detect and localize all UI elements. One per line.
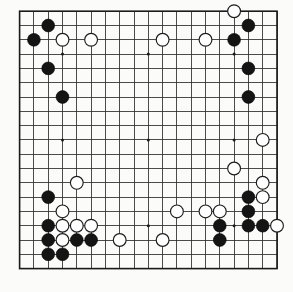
black-stone[interactable] [56, 248, 69, 261]
go-board-canvas[interactable] [0, 0, 293, 292]
white-stone[interactable] [70, 219, 83, 232]
black-stone[interactable] [56, 91, 69, 104]
star-point [61, 53, 64, 56]
black-stone[interactable] [42, 19, 55, 32]
star-point [147, 224, 150, 227]
black-stone[interactable] [42, 62, 55, 75]
black-stone[interactable] [42, 219, 55, 232]
black-stone[interactable] [242, 91, 255, 104]
white-stone[interactable] [199, 205, 212, 218]
white-stone[interactable] [256, 176, 269, 189]
white-stone[interactable] [228, 162, 241, 175]
white-stone[interactable] [85, 219, 98, 232]
white-stone[interactable] [271, 219, 284, 232]
black-stone[interactable] [85, 234, 98, 247]
star-point [147, 138, 150, 141]
white-stone[interactable] [156, 234, 169, 247]
star-point [147, 53, 150, 56]
black-stone[interactable] [242, 219, 255, 232]
black-stone[interactable] [256, 219, 269, 232]
white-stone[interactable] [213, 205, 226, 218]
black-stone[interactable] [242, 191, 255, 204]
star-point [233, 138, 236, 141]
black-stone[interactable] [213, 219, 226, 232]
white-stone[interactable] [113, 234, 126, 247]
white-stone[interactable] [56, 205, 69, 218]
black-stone[interactable] [42, 248, 55, 261]
white-stone[interactable] [56, 219, 69, 232]
black-stone[interactable] [42, 234, 55, 247]
black-stone[interactable] [213, 234, 226, 247]
black-stone[interactable] [242, 205, 255, 218]
white-stone[interactable] [70, 176, 83, 189]
black-stone[interactable] [228, 33, 241, 46]
star-point [233, 224, 236, 227]
black-stone[interactable] [70, 234, 83, 247]
white-stone[interactable] [256, 191, 269, 204]
white-stone[interactable] [171, 205, 184, 218]
black-stone[interactable] [28, 33, 41, 46]
go-board-diagram [0, 0, 293, 292]
black-stone[interactable] [242, 62, 255, 75]
star-point [233, 53, 236, 56]
white-stone[interactable] [228, 5, 241, 18]
white-stone[interactable] [56, 234, 69, 247]
white-stone[interactable] [156, 33, 169, 46]
white-stone[interactable] [256, 134, 269, 147]
black-stone[interactable] [242, 19, 255, 32]
star-point [61, 138, 64, 141]
white-stone[interactable] [199, 33, 212, 46]
white-stone[interactable] [56, 33, 69, 46]
black-stone[interactable] [42, 191, 55, 204]
white-stone[interactable] [85, 33, 98, 46]
board-background [0, 0, 293, 292]
